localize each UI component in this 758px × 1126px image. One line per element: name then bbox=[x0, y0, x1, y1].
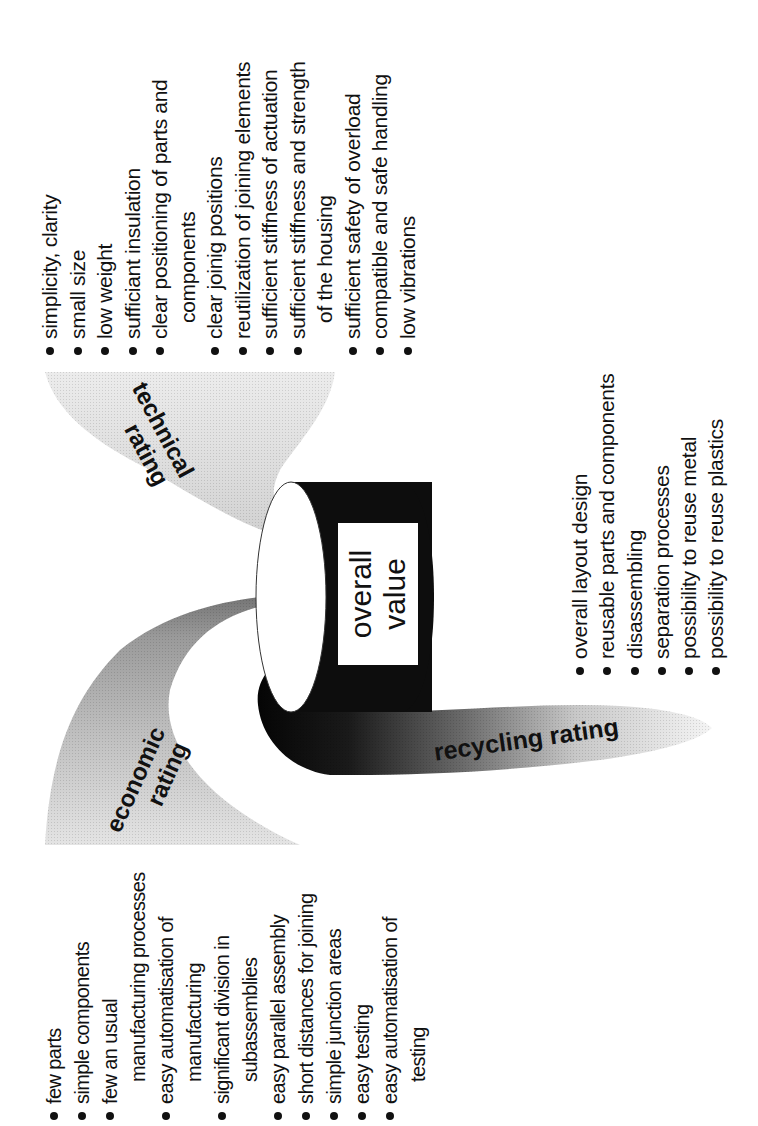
bullet-icon bbox=[274, 1112, 282, 1120]
bullet-icon bbox=[78, 1112, 86, 1120]
bullet-icon bbox=[211, 347, 219, 355]
list-item: low weight bbox=[91, 61, 119, 357]
list-item: short distances for joining bbox=[292, 872, 320, 1122]
list-item-continuation: components bbox=[174, 61, 202, 357]
list-item: overall layout design bbox=[566, 374, 593, 678]
bullet-icon bbox=[162, 1112, 170, 1120]
bullet-icon bbox=[46, 347, 54, 355]
recycling-criteria-list: overall layout design reusable parts and… bbox=[566, 374, 730, 678]
bullet-icon bbox=[266, 347, 274, 355]
bullet-icon bbox=[349, 347, 357, 355]
list-item-continuation: testing bbox=[404, 872, 432, 1122]
list-item-continuation: subassemblies bbox=[236, 872, 264, 1122]
list-item: sufficiant insulation bbox=[119, 61, 147, 357]
bullet-icon bbox=[156, 347, 164, 355]
bullet-icon bbox=[330, 1112, 338, 1120]
list-item: simple junction areas bbox=[320, 872, 348, 1122]
list-item: simple components bbox=[68, 872, 96, 1122]
bullet-icon bbox=[129, 347, 137, 355]
list-item-continuation: manufacturing bbox=[180, 872, 208, 1122]
list-item-continuation: manufacturing processes bbox=[124, 872, 152, 1122]
bullet-icon bbox=[106, 1112, 114, 1120]
list-item: clear positioning of parts and bbox=[146, 61, 174, 357]
overall-value-box: overall value bbox=[338, 523, 418, 665]
list-item: easy parallel assembly bbox=[264, 872, 292, 1122]
list-item: easy automatisation of bbox=[376, 872, 404, 1122]
list-item: small size bbox=[64, 61, 92, 357]
list-item: sufficient stiffness of actuation bbox=[256, 61, 284, 357]
bullet-icon bbox=[576, 667, 584, 675]
bullet-icon bbox=[376, 347, 384, 355]
bullet-icon bbox=[294, 347, 302, 355]
bullet-icon bbox=[603, 667, 611, 675]
list-item: sufficient stiffness and strength bbox=[284, 61, 312, 357]
overall-value-label-line1: overall bbox=[344, 550, 378, 638]
bullet-icon bbox=[386, 1112, 394, 1120]
diagram-canvas: overall value technical rating economic … bbox=[0, 0, 758, 1126]
technical-criteria-list: simplicity, clarity small size low weigh… bbox=[36, 61, 421, 357]
list-item: few an usual bbox=[96, 872, 124, 1122]
list-item: easy testing bbox=[348, 872, 376, 1122]
bullet-icon bbox=[101, 347, 109, 355]
bullet-icon bbox=[239, 347, 247, 355]
list-item: easy automatisation of bbox=[152, 872, 180, 1122]
list-item-continuation: of the housing bbox=[311, 61, 339, 357]
list-item: separation processes bbox=[648, 374, 675, 678]
bullet-icon bbox=[302, 1112, 310, 1120]
list-item: reusable parts and components bbox=[593, 374, 620, 678]
list-item: disassembling bbox=[621, 374, 648, 678]
economic-criteria-list: few parts simple components few an usual… bbox=[40, 872, 432, 1122]
list-item: clear joinig positions bbox=[201, 61, 229, 357]
list-item: possibility to reuse plastics bbox=[702, 374, 729, 678]
bullet-icon bbox=[50, 1112, 58, 1120]
bullet-icon bbox=[358, 1112, 366, 1120]
list-item: significant division in bbox=[208, 872, 236, 1122]
list-item: simplicity, clarity bbox=[36, 61, 64, 357]
bullet-icon bbox=[658, 667, 666, 675]
bullet-icon bbox=[685, 667, 693, 675]
overall-value-label-line2: value bbox=[378, 558, 412, 630]
list-item: sufficient safety of overload bbox=[339, 61, 367, 357]
bullet-icon bbox=[404, 347, 412, 355]
list-item: low vibrations bbox=[394, 61, 422, 357]
list-item: possibility to reuse metal bbox=[675, 374, 702, 678]
list-item: reutilization of joining elements bbox=[229, 61, 257, 357]
bullet-icon bbox=[218, 1112, 226, 1120]
list-item: compatible and safe handling bbox=[366, 61, 394, 357]
bullet-icon bbox=[712, 667, 720, 675]
list-item: few parts bbox=[40, 872, 68, 1122]
bullet-icon bbox=[631, 667, 639, 675]
bullet-icon bbox=[74, 347, 82, 355]
